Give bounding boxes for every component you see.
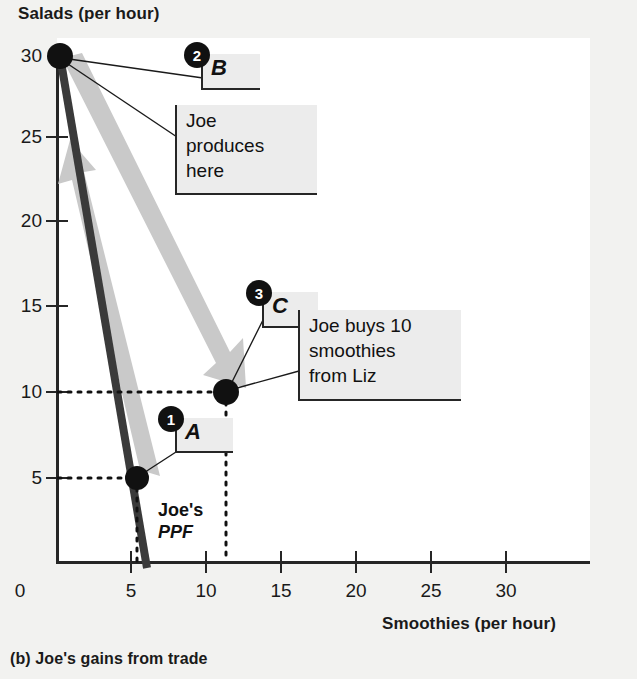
- badge-3: 3: [246, 280, 272, 306]
- point-b-label-box: B: [201, 54, 260, 90]
- point-b-label: B: [211, 55, 227, 80]
- badge-1: 1: [158, 406, 184, 432]
- ppf-caption-line-2: PPF: [158, 522, 203, 544]
- panel-caption: (b) Joe's gains from trade: [10, 650, 208, 668]
- callout-joe-produces-here: Joe produces here: [175, 105, 317, 195]
- point-c-label: C: [272, 293, 288, 318]
- ppf-caption: Joe's PPF: [158, 500, 203, 543]
- callout-joe-produces-here-line-2: produces: [186, 133, 307, 158]
- data-point-a[interactable]: [125, 466, 149, 490]
- point-a-label: A: [185, 419, 201, 444]
- callout-joe-produces-here-line-3: here: [186, 158, 307, 183]
- badge-2: 2: [184, 42, 210, 68]
- ppf-caption-line-1: Joe's: [158, 500, 203, 522]
- callout-joe-buys-smoothies-line-1: Joe buys 10: [309, 313, 451, 338]
- point-a-label-box: A: [175, 418, 233, 453]
- data-point-b[interactable]: [47, 43, 73, 69]
- callout-joe-buys-smoothies: Joe buys 10 smoothies from Liz: [298, 310, 461, 401]
- ppf-figure: Salads (per hour) Smoothies (per hour) 3…: [0, 0, 637, 679]
- badge-1-number: 1: [167, 412, 175, 427]
- callout-joe-buys-smoothies-line-3: from Liz: [309, 363, 451, 388]
- data-point-c[interactable]: [213, 379, 239, 405]
- callout-joe-buys-smoothies-line-2: smoothies: [309, 338, 451, 363]
- callout-joe-produces-here-line-1: Joe: [186, 108, 307, 133]
- badge-2-number: 2: [193, 48, 201, 63]
- badge-3-number: 3: [255, 286, 263, 301]
